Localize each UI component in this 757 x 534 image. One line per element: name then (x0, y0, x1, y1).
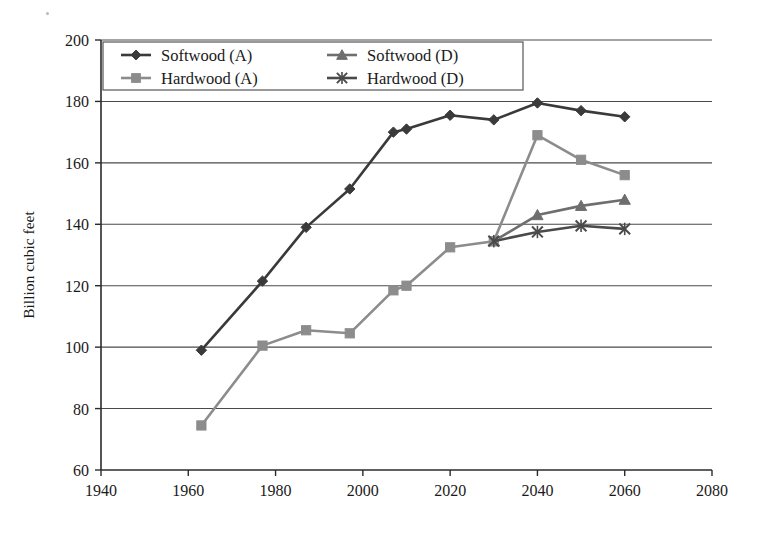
x-tick-label: 1940 (85, 482, 117, 499)
y-tick-label: 140 (65, 216, 89, 233)
y-tick-label: 160 (65, 155, 89, 172)
marker-diamond (445, 110, 455, 120)
y-tick-label: 200 (65, 32, 89, 49)
y-axis-title: Billion cubic feet (20, 211, 37, 319)
y-axis-title-text: Billion cubic feet (20, 211, 37, 319)
marker-square (576, 155, 585, 164)
legend-label: Softwood (A) (161, 46, 252, 65)
y-tick-label: 60 (73, 462, 89, 479)
marker-square (533, 131, 542, 140)
marker-square (345, 329, 354, 338)
x-tick-label: 2060 (609, 482, 641, 499)
scan-speck (46, 12, 49, 15)
legend-label: Hardwood (D) (367, 69, 464, 88)
marker-square (302, 326, 311, 335)
y-tick-label: 120 (65, 278, 89, 295)
axes (95, 40, 712, 476)
line-chart: 6080100120140160180200194019601980200020… (0, 0, 757, 534)
chart-figure: 6080100120140160180200194019601980200020… (0, 0, 757, 534)
y-tick-label: 80 (73, 401, 89, 418)
marker-diamond (576, 105, 586, 115)
tick-labels: 6080100120140160180200194019601980200020… (65, 32, 728, 499)
series-softwood-a (196, 98, 630, 356)
legend-label: Hardwood (A) (161, 69, 258, 88)
legend: Softwood (A)Softwood (D)Hardwood (A)Hard… (103, 42, 523, 90)
x-tick-label: 1960 (172, 482, 204, 499)
marker-square (620, 171, 629, 180)
marker-square (132, 74, 141, 83)
x-tick-label: 2040 (521, 482, 553, 499)
marker-diamond (489, 115, 499, 125)
series-line (494, 200, 625, 241)
marker-square (402, 281, 411, 290)
marker-square (197, 421, 206, 430)
series-line (201, 103, 624, 350)
x-tick-label: 2020 (434, 482, 466, 499)
x-tick-label: 2000 (347, 482, 379, 499)
marker-square (446, 243, 455, 252)
y-tick-label: 180 (65, 93, 89, 110)
marker-square (258, 341, 267, 350)
marker-diamond (532, 98, 542, 108)
marker-square (389, 286, 398, 295)
x-tick-label: 1980 (260, 482, 292, 499)
x-tick-label: 2080 (696, 482, 728, 499)
marker-diamond (401, 124, 411, 134)
legend-label: Softwood (D) (367, 46, 458, 65)
marker-diamond (620, 112, 630, 122)
y-tick-label: 100 (65, 339, 89, 356)
